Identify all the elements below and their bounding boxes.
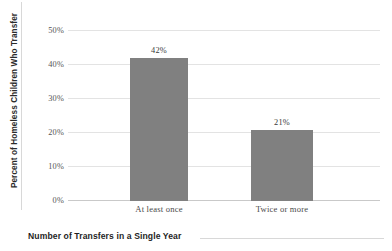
x-tick-label-at-least-once: At least once — [109, 204, 209, 214]
x-axis-title-block: Number of Transfers in a Single Year — [28, 231, 384, 247]
y-axis-title: Percent of Homeless Children Who Transfe… — [10, 1, 19, 201]
y-axis-tick-labels: 50% 40% 30% 20% 10% 0% — [28, 30, 64, 201]
x-axis-title-rule — [200, 238, 384, 239]
gridline-50 — [68, 30, 380, 31]
plot-area: 42% 21% — [68, 30, 380, 201]
gridline-40 — [68, 64, 380, 65]
y-axis-title-block: Percent of Homeless Children Who Transfe… — [0, 0, 26, 212]
gridline-baseline-0 — [68, 200, 380, 201]
gridline-20 — [68, 132, 380, 133]
y-tick-label: 50% — [30, 26, 64, 35]
y-tick-label: 20% — [30, 128, 64, 137]
x-axis-tick-labels: At least once Twice or more — [68, 204, 380, 218]
bar-twice-or-more[interactable] — [251, 130, 313, 201]
y-axis-title-rule — [21, 2, 22, 210]
y-tick-label: 0% — [30, 196, 64, 205]
bar-chart-figure: Percent of Homeless Children Who Transfe… — [0, 0, 392, 251]
y-tick-label: 40% — [30, 60, 64, 69]
bar-value-label-twice-or-more: 21% — [251, 118, 313, 127]
bar-at-least-once[interactable] — [130, 58, 188, 201]
gridline-30 — [68, 98, 380, 99]
y-tick-label: 30% — [30, 94, 64, 103]
bar-value-label-at-least-once: 42% — [130, 46, 188, 55]
y-tick-label: 10% — [30, 162, 64, 171]
gridline-10 — [68, 166, 380, 167]
x-axis-title: Number of Transfers in a Single Year — [28, 231, 181, 241]
x-tick-label-twice-or-more: Twice or more — [232, 204, 332, 214]
